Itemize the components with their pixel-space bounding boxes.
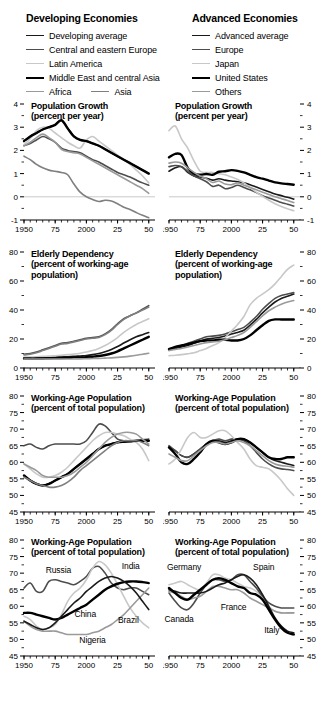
legend-item-japan: Japan	[192, 57, 322, 70]
series-annotation: Brazil	[118, 615, 139, 625]
series-line	[24, 432, 149, 477]
legend-swatch-line	[192, 49, 210, 50]
y-tick-label: 80	[9, 536, 18, 545]
y-tick-label: 50	[307, 491, 316, 500]
legend-label: Africa	[49, 87, 71, 97]
panel-pop-growth-advanced: 19507520002550-101234Population Growth(p…	[163, 98, 326, 238]
x-tick-label: 1950	[163, 225, 178, 234]
series-line	[169, 265, 294, 356]
panel-working-age-advanced-countries: 195075200025504550556065707580Working-Ag…	[163, 534, 326, 674]
legend-label: Japan	[215, 59, 239, 69]
series-line	[169, 165, 294, 206]
y-tick-label: 80	[307, 392, 316, 401]
x-tick-label: 1950	[15, 517, 33, 526]
legend-row-africa-asia: Africa Asia	[26, 85, 176, 98]
y-tick-label: 4	[14, 100, 19, 109]
series-line	[24, 156, 149, 217]
y-tick-label: -1	[307, 216, 315, 225]
legend-item-asia: Asia	[91, 85, 131, 98]
series-line	[169, 153, 294, 184]
legend-label: Latin America	[49, 59, 102, 69]
chart-svg: 19507520002550020406080	[163, 246, 326, 386]
x-tick-label: 2000	[77, 517, 95, 526]
series-annotation: Nigeria	[79, 635, 105, 645]
legend-label: United States	[215, 73, 268, 83]
y-tick-label: 45	[9, 508, 18, 517]
series-annotation: China	[74, 609, 96, 619]
x-tick-label: 50	[144, 373, 153, 382]
y-tick-label: 70	[307, 569, 316, 578]
chart-svg: 195075200025504550556065707580	[163, 390, 326, 530]
legend-label: Asia	[114, 87, 131, 97]
y-tick-label: 70	[9, 425, 18, 434]
x-tick-label: 2000	[77, 225, 95, 234]
x-tick-label: 2000	[222, 225, 240, 234]
x-tick-label: 25	[113, 517, 122, 526]
legend-swatch-line	[192, 35, 210, 36]
y-tick-label: 80	[307, 536, 316, 545]
legend-label: Advanced average	[215, 31, 288, 41]
x-tick-label: 50	[144, 225, 153, 234]
x-tick-label: 25	[258, 225, 267, 234]
y-tick-label: 1	[14, 170, 19, 179]
x-tick-label: 75	[51, 517, 60, 526]
series-annotation: India	[122, 561, 140, 571]
legend-swatch-line	[26, 49, 44, 50]
legend-item-africa: Africa	[26, 85, 71, 98]
legend-label: Developing average	[49, 31, 127, 41]
legend-item-europe: Europe	[192, 43, 322, 56]
series-line	[24, 127, 149, 183]
x-tick-label: 25	[113, 225, 122, 234]
y-tick-label: 55	[9, 619, 18, 628]
legend-swatch-line	[26, 35, 44, 36]
x-tick-label: 2000	[222, 517, 240, 526]
x-tick-label: 2000	[77, 373, 95, 382]
y-tick-label: 75	[307, 553, 316, 562]
y-tick-label: 0	[307, 193, 312, 202]
legend-developing-title: Developing Economies	[26, 12, 176, 24]
x-tick-label: 25	[113, 373, 122, 382]
y-tick-label: 45	[9, 652, 18, 661]
chart-svg: 19507520002550-101234	[0, 98, 163, 238]
x-tick-label: 1950	[15, 661, 33, 670]
y-tick-label: 55	[307, 475, 316, 484]
y-tick-label: 3	[14, 123, 19, 132]
panel-working-age-developing: 195075200025504550556065707580Working-Ag…	[0, 390, 163, 530]
y-tick-label: 80	[307, 248, 316, 257]
y-tick-label: 50	[9, 635, 18, 644]
legend-swatch-line	[192, 77, 210, 79]
x-tick-label: 1950	[15, 373, 33, 382]
y-tick-label: 50	[9, 491, 18, 500]
series-line	[24, 306, 149, 355]
y-tick-label: 0	[14, 364, 19, 373]
x-tick-label: 75	[196, 373, 205, 382]
x-tick-label: 1950	[163, 661, 178, 670]
x-tick-label: 50	[144, 517, 153, 526]
series-annotation: Italy	[264, 625, 279, 635]
legend-item-latin-america: Latin America	[26, 57, 176, 70]
x-tick-label: 50	[289, 373, 298, 382]
y-tick-label: -1	[11, 216, 19, 225]
y-tick-label: 75	[307, 409, 316, 418]
y-tick-label: 60	[9, 458, 18, 467]
y-tick-label: 80	[9, 248, 18, 257]
legend-label: Europe	[215, 45, 243, 55]
x-tick-label: 2000	[77, 661, 95, 670]
y-tick-label: 60	[9, 277, 18, 286]
x-tick-label: 75	[196, 661, 205, 670]
x-tick-label: 75	[51, 225, 60, 234]
y-tick-label: 45	[307, 508, 316, 517]
y-tick-label: 40	[9, 306, 18, 315]
y-tick-label: 55	[307, 619, 316, 628]
y-tick-label: 65	[307, 586, 316, 595]
charts-grid: 19507520002550-101234Population Growth(p…	[0, 98, 326, 720]
y-tick-label: 65	[9, 586, 18, 595]
x-tick-label: 75	[196, 517, 205, 526]
panel-elderly-dep-advanced: 19507520002550020406080Elderly Dependenc…	[163, 246, 326, 386]
legend-label: Middle East and central Asia	[49, 73, 160, 83]
y-tick-label: 65	[307, 442, 316, 451]
y-tick-label: 70	[9, 569, 18, 578]
y-tick-label: 45	[307, 652, 316, 661]
legend-developing: Developing Economies Developing average …	[26, 12, 176, 98]
legend-swatch-line	[26, 63, 44, 64]
